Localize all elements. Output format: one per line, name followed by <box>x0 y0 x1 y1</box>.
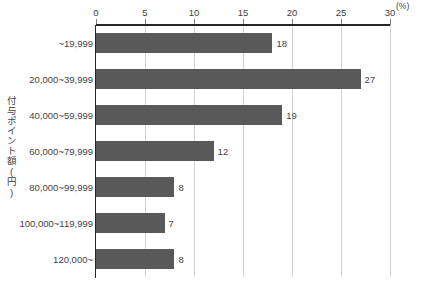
x-tick-label-25: 25 <box>336 7 347 18</box>
x-tick-label-20: 20 <box>287 7 298 18</box>
y-category-label-4: 80,000~99,999 <box>0 182 93 193</box>
y-category-label-5: 100,000~119,999 <box>0 218 93 229</box>
bar-value-label-4: 8 <box>178 182 183 193</box>
gridline-15 <box>243 25 244 277</box>
y-category-label-2: 40,000~59,999 <box>0 110 93 121</box>
gridline-20 <box>292 25 293 277</box>
bar-5 <box>96 213 165 233</box>
y-category-label-3: 60,000~79,999 <box>0 146 93 157</box>
y-category-label-6: 120,000~ <box>0 254 93 265</box>
bar-value-label-3: 12 <box>218 146 229 157</box>
x-tick-label-0: 0 <box>93 7 98 18</box>
x-tick-label-15: 15 <box>238 7 249 18</box>
y-category-label-1: 20,000~39,999 <box>0 74 93 85</box>
bar-value-label-6: 8 <box>178 254 183 265</box>
bar-1 <box>96 69 361 89</box>
bar-0 <box>96 33 272 53</box>
bar-value-label-0: 18 <box>276 38 287 49</box>
x-tick-label-30: 30 <box>385 7 396 18</box>
x-axis-unit-label: (%) <box>396 1 409 11</box>
bar-value-label-2: 19 <box>286 110 297 121</box>
bar-chart: 付与ポイント額(円) ~19,99920,000~39,99940,000~59… <box>0 0 426 291</box>
bar-4 <box>96 177 174 197</box>
bar-value-label-5: 7 <box>169 218 174 229</box>
bar-value-label-1: 27 <box>365 74 376 85</box>
x-tick-label-10: 10 <box>189 7 200 18</box>
gridline-25 <box>341 25 342 277</box>
bar-2 <box>96 105 282 125</box>
plot-area: 18271912878 <box>96 25 390 277</box>
y-category-label-0: ~19,999 <box>0 38 93 49</box>
gridline-30 <box>390 25 391 277</box>
bar-6 <box>96 249 174 269</box>
y-axis-line <box>95 25 96 278</box>
x-tick-label-5: 5 <box>142 7 147 18</box>
y-axis-category-labels: ~19,99920,000~39,99940,000~59,99960,000~… <box>0 25 93 277</box>
x-axis-line <box>96 24 390 26</box>
bar-3 <box>96 141 214 161</box>
